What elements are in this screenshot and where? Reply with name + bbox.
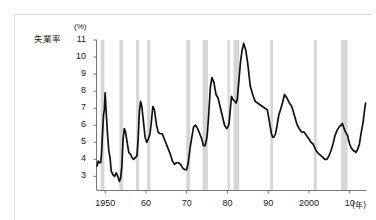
x-tick-label: 80 [222,198,232,208]
recession-band [234,40,240,190]
unemployment-rate-line-chart [0,0,376,220]
y-tick-label-text: 4 [62,154,86,163]
recession-band [203,40,208,190]
x-tick-label: 2000 [299,198,319,208]
y-tick-label-text: 11 [62,35,86,44]
recession-band [341,40,348,190]
recession-band [314,40,317,190]
y-tick-label-text: 6 [62,120,86,129]
x-tick-label: 90 [263,198,273,208]
x-tick-label: 10 [345,198,355,208]
y-tick-label-text: 9 [62,69,86,78]
y-tick-label-text: 7 [62,103,86,112]
x-tick-label: 1950 [95,198,115,208]
recession-band [270,40,273,190]
y-tick-label-text: 5 [62,137,86,146]
y-tick-label-text: 3 [62,171,86,180]
x-tick-label: 60 [141,198,151,208]
recession-bands-group [101,40,348,190]
x-tick-label: 70 [182,198,192,208]
y-tick-label-text: 10 [62,52,86,61]
recession-band [147,40,150,190]
y-tick-label-text: 8 [62,86,86,95]
